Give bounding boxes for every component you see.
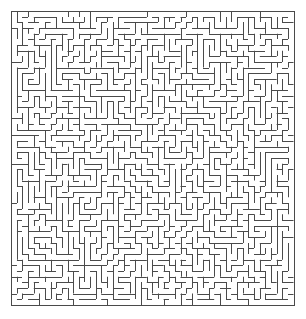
maze-canvas — [0, 0, 306, 319]
maze-figure — [0, 0, 306, 319]
